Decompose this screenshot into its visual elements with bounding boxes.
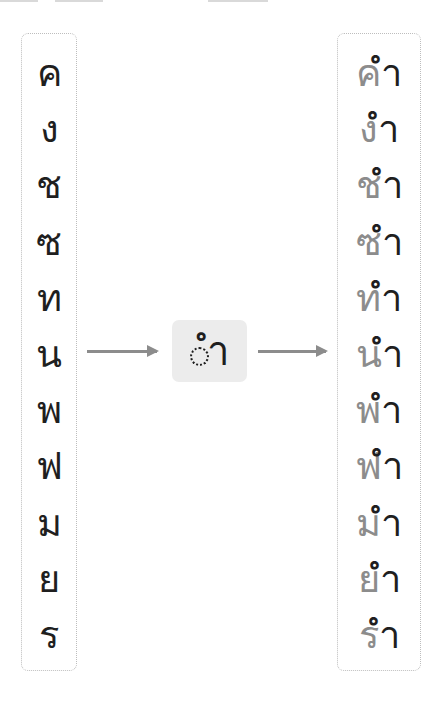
result-consonant: ค <box>356 45 381 101</box>
consonant-item: ค <box>22 45 76 101</box>
result-word: ชำ <box>338 157 420 213</box>
result-consonant: ฟ <box>355 438 382 494</box>
consonant-item: พ <box>22 382 76 438</box>
dotted-circle-icon <box>190 347 209 366</box>
result-consonant: ง <box>359 101 378 157</box>
result-consonant: ท <box>356 270 381 326</box>
result-vowel: ำ <box>378 101 399 157</box>
consonant-item: ฟ <box>22 438 76 494</box>
consonant-item: ย <box>22 551 76 607</box>
result-vowel: ำ <box>380 551 401 607</box>
arrow-right-icon <box>87 350 157 353</box>
result-vowel: ำ <box>382 214 403 270</box>
result-word: พำ <box>338 382 420 438</box>
result-consonant: ช <box>356 157 382 213</box>
result-consonant: ร <box>359 607 379 663</box>
result-vowel: ำ <box>381 495 402 551</box>
result-word: มำ <box>338 495 420 551</box>
consonant-item: ม <box>22 495 76 551</box>
result-vowel: ำ <box>382 157 403 213</box>
result-word: คำ <box>338 45 420 101</box>
result-consonant: ม <box>356 495 381 551</box>
result-vowel: ำ <box>379 607 400 663</box>
cropped-header-strip <box>0 0 438 4</box>
vowel-sara-am: ำ <box>190 320 229 382</box>
result-vowel: ำ <box>382 326 403 382</box>
result-word: ทำ <box>338 270 420 326</box>
consonant-column: คงชซทนพฟมยร <box>21 33 77 671</box>
result-word: ฟำ <box>338 438 420 494</box>
arrow-right-icon <box>258 350 326 353</box>
vowel-box: ำ <box>172 320 247 382</box>
result-column: คำงำชำซำทำนำพำฟำมำยำรำ <box>337 33 421 671</box>
consonant-item: ง <box>22 101 76 157</box>
consonant-item: ช <box>22 157 76 213</box>
consonant-item: น <box>22 326 76 382</box>
result-consonant: น <box>356 326 382 382</box>
result-consonant: ซ <box>356 214 382 270</box>
result-word: รำ <box>338 607 420 663</box>
result-vowel: ำ <box>381 45 402 101</box>
consonant-item: ซ <box>22 214 76 270</box>
result-vowel: ำ <box>381 270 402 326</box>
result-word: งำ <box>338 101 420 157</box>
result-word: ซำ <box>338 214 420 270</box>
result-word: นำ <box>338 326 420 382</box>
result-consonant: พ <box>356 382 381 438</box>
result-word: ยำ <box>338 551 420 607</box>
result-consonant: ย <box>358 551 380 607</box>
result-vowel: ำ <box>382 438 403 494</box>
consonant-item: ท <box>22 270 76 326</box>
result-vowel: ำ <box>381 382 402 438</box>
consonant-item: ร <box>22 607 76 663</box>
